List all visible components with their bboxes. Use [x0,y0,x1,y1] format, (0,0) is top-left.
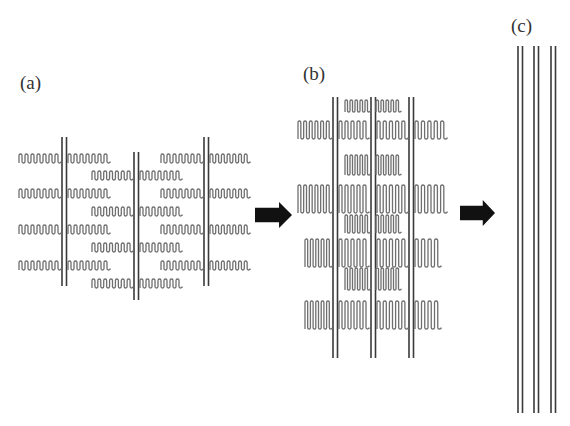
panel-b-serpentine-7 [376,155,401,175]
panel-a-serpentine-5 [140,171,182,180]
panel-a-serpentine-9 [210,189,250,198]
panel-b-serpentine-10 [377,185,408,213]
panel-b-serpentine-12 [345,215,370,233]
panel-a-serpentine-18 [19,261,61,270]
arrow-a-to-b-icon [255,202,292,228]
panel-b-serpentine-22 [377,301,408,329]
panel-b-serpentine-5 [376,100,401,112]
panel-a-serpentine-23 [140,279,182,288]
panel-a-rods [62,137,209,300]
panel-c: (c) [511,15,556,413]
panel-a-serpentine-8 [161,189,203,198]
panel-b-serpentine-4 [345,100,370,112]
panel-a-serpentine-13 [68,225,110,234]
panel-a-label: (a) [20,72,41,94]
panel-a: (a) [19,72,250,300]
panel-b: (b) [298,63,447,358]
panel-c-rods [518,46,556,413]
panel-a-serpentine-20 [161,261,203,270]
panel-b-serpentine-0 [298,121,332,139]
panel-a-serpentine-22 [92,279,133,288]
panel-b-serpentine-11 [415,185,447,213]
panel-b-serpentine-1 [339,121,369,139]
panel-b-serpentine-14 [305,239,332,267]
panel-c-label: (c) [511,15,532,37]
panel-a-serpentine-21 [210,261,250,270]
panel-b-serpentine-16 [377,239,408,267]
panel-a-serpentine-12 [19,225,61,234]
panel-a-serpentine-17 [140,243,182,252]
panel-a-serpentine-2 [161,154,203,163]
panel-b-serpentines [298,100,447,329]
arrow-b-to-c-icon [460,200,495,226]
panel-a-serpentine-15 [210,225,250,234]
panel-a-serpentine-11 [140,207,182,216]
panel-b-serpentine-15 [339,239,369,267]
panel-b-serpentine-9 [339,185,369,213]
panel-b-serpentine-19 [376,268,401,290]
panel-b-label: (b) [303,63,325,85]
panel-b-serpentine-3 [415,121,447,139]
panel-a-serpentine-10 [92,207,133,216]
panel-b-serpentine-2 [377,121,408,139]
panel-a-serpentine-1 [68,154,110,163]
diagram-figure: (a) (b) (c) [0,0,570,426]
panel-a-serpentine-4 [92,171,133,180]
panel-b-serpentine-18 [345,268,370,290]
panel-a-serpentine-0 [19,154,61,163]
panel-a-serpentine-3 [210,154,250,163]
panel-b-serpentine-21 [339,301,369,329]
panel-b-serpentine-20 [305,301,332,329]
panel-a-serpentine-14 [161,225,203,234]
panel-a-serpentine-16 [92,243,133,252]
panel-b-serpentine-13 [376,215,401,233]
panel-b-serpentine-8 [298,185,332,213]
panel-b-serpentine-6 [345,155,370,175]
panel-a-serpentine-6 [19,189,61,198]
panel-a-serpentine-19 [68,261,110,270]
panel-b-serpentine-23 [415,301,441,329]
panel-a-serpentine-7 [68,189,110,198]
panel-b-serpentine-17 [415,239,441,267]
